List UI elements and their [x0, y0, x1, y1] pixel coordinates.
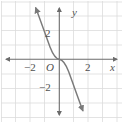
x-axis-label: x: [110, 62, 115, 73]
x-tick-label-negative-2: −2: [24, 62, 36, 73]
origin-label: O: [46, 62, 54, 73]
y-axis-label: y: [72, 7, 77, 18]
y-tick-label-positive-2: 2: [45, 28, 51, 39]
graph-figure: y x −2 2 2 −2 O: [0, 0, 123, 123]
plot-background: [0, 0, 123, 123]
x-tick-label-positive-2: 2: [85, 62, 91, 73]
coordinate-plane: [0, 0, 123, 123]
y-tick-label-negative-2: −2: [39, 82, 51, 93]
